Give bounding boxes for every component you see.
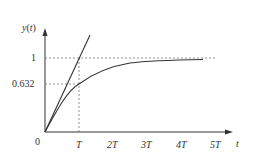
origin-label: 0 xyxy=(35,136,40,147)
initial-tangent-line xyxy=(45,35,90,132)
x-axis-arrow-icon xyxy=(225,130,233,135)
y-axis-arrow-icon xyxy=(43,28,48,36)
x-tick-T: T xyxy=(76,139,83,150)
step-response-curve xyxy=(45,60,203,133)
step-response-chart: y(t) 1 0.632 0 T 2T 3T 4T 5T t xyxy=(0,0,257,159)
x-tick-2T: 2T xyxy=(107,139,119,150)
y-tick-1: 1 xyxy=(31,52,36,63)
x-tick-4T: 4T xyxy=(176,139,188,150)
x-axis-label: t xyxy=(236,138,239,149)
y-axis-label: y(t) xyxy=(21,22,36,34)
x-tick-3T: 3T xyxy=(140,139,153,150)
y-tick-0632: 0.632 xyxy=(12,78,35,89)
x-tick-5T: 5T xyxy=(210,139,222,150)
